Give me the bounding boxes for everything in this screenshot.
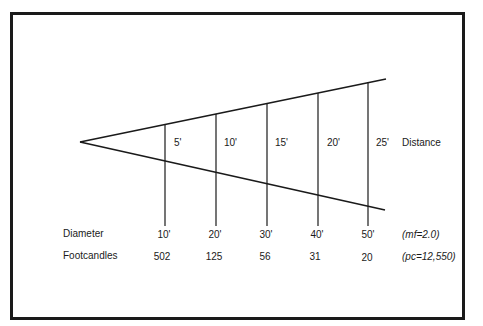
diameter-value-15ft: 30' (259, 229, 272, 241)
diameter-note: (mf=2.0) (402, 229, 440, 241)
diameter-value-20ft: 40' (310, 229, 323, 241)
row-label-footcandles: Footcandles (63, 250, 117, 262)
distance-label-15ft: 15' (275, 137, 288, 149)
distance-label-20ft: 20' (327, 137, 340, 149)
distance-label-5ft: 5' (174, 137, 181, 149)
footcandles-value-5ft: 502 (154, 251, 171, 263)
footcandles-value-15ft: 56 (259, 251, 270, 263)
beam-lower-edge (80, 142, 385, 210)
beam-spread-diagram (0, 0, 483, 326)
diameter-value-5ft: 10' (157, 229, 170, 241)
footcandles-value-25ft: 20 (361, 252, 372, 264)
diameter-value-25ft: 50' (361, 229, 374, 241)
beam-upper-edge (80, 79, 386, 142)
distance-label-25ft: 25' (376, 137, 389, 149)
footcandles-note: (pc=12,550) (402, 251, 456, 263)
row-label-diameter: Diameter (63, 228, 104, 240)
diameter-value-10ft: 20' (208, 229, 221, 241)
distance-label-10ft: 10' (224, 137, 237, 149)
distance-axis-label: Distance (402, 137, 441, 149)
footcandles-value-10ft: 125 (206, 251, 223, 263)
footcandles-value-20ft: 31 (309, 251, 320, 263)
